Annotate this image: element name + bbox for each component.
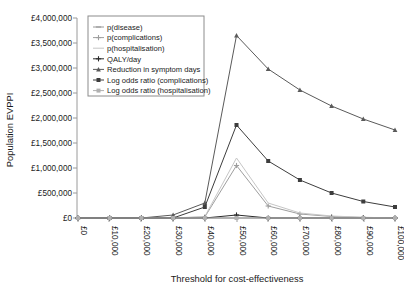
y-tick-label: £500,000 (38, 189, 73, 198)
y-tick-labels: £4,000,000 £3,500,000 £3,000,000 £2,500,… (31, 14, 72, 223)
x-tick-label: £40,000 (206, 226, 215, 256)
y-tick-label: £3,500,000 (31, 39, 72, 48)
data-point-triangle (298, 88, 303, 92)
data-point-square (203, 205, 207, 209)
y-axis-title: Population EVPPI (4, 93, 15, 168)
y-tick-label: £2,500,000 (31, 89, 72, 98)
legend-item-label: Log odds ratio (complications) (107, 76, 209, 85)
data-point-square (97, 78, 101, 82)
data-point-square (361, 216, 365, 220)
data-point-square (298, 178, 302, 182)
y-axis-ticks (73, 18, 77, 218)
x-tick-label: £30,000 (174, 226, 183, 256)
x-tick-label: £60,000 (269, 226, 278, 256)
x-tick-label: £70,000 (301, 226, 310, 256)
x-tick-label: £100,000 (396, 226, 404, 261)
y-tick-label: £0 (63, 214, 73, 223)
data-point-square (393, 216, 397, 220)
data-point-square (139, 216, 143, 220)
x-tick-label: £50,000 (238, 226, 247, 256)
legend-item-label: QALY/day (107, 55, 141, 64)
data-point-square (298, 216, 302, 220)
y-tick-label: £4,000,000 (31, 14, 72, 23)
x-axis-title-text: Threshold for cost-effectiveness (171, 273, 304, 284)
data-point-square (203, 216, 207, 220)
legend-item-label: p(hospitalisation) (107, 44, 165, 53)
y-tick-label: £3,000,000 (31, 64, 72, 73)
data-point-square (171, 216, 175, 220)
x-tick-label: £90,000 (365, 226, 374, 256)
legend: p(disease)p(complications)p(hospitalisat… (88, 16, 211, 96)
data-point-square (361, 200, 365, 204)
data-point-square (266, 159, 270, 163)
x-tick-label: £20,000 (142, 226, 151, 256)
legend-item-label: p(complications) (107, 33, 163, 42)
y-tick-label: £1,000,000 (31, 164, 72, 173)
data-point-triangle (234, 33, 239, 37)
legend-item-5[interactable]: Log odds ratio (complications) (93, 76, 209, 85)
data-point-square (330, 216, 334, 220)
data-point-square (97, 89, 101, 93)
legend-item-label: Reduction in symptom days (107, 65, 200, 74)
data-point-square (330, 191, 334, 195)
y-axis-title-text: Population EVPPI (4, 93, 15, 168)
data-point-square (235, 123, 239, 127)
legend-item-label: p(disease) (107, 23, 143, 32)
data-point-square (266, 216, 270, 220)
x-tick-label: £80,000 (333, 226, 342, 256)
legend-item-label: Log odds ratio (hospitalisation) (107, 86, 211, 95)
data-point-triangle (329, 104, 334, 108)
x-tick-label: £10,000 (110, 226, 119, 256)
series-1 (75, 163, 397, 221)
evppi-line-chart: Population EVPPI £4,000,000 £3,500,000 £… (0, 0, 404, 289)
legend-item-4[interactable]: Reduction in symptom days (93, 65, 200, 74)
data-point-square (393, 205, 397, 209)
data-point-square (235, 216, 239, 220)
series-5 (76, 123, 397, 220)
data-point-square (108, 216, 112, 220)
x-tick-labels: £0 £10,000 £20,000 £30,000 £40,000 £50,0… (79, 226, 404, 261)
data-point-square (76, 216, 80, 220)
y-tick-label: £1,500,000 (31, 139, 72, 148)
y-tick-label: £2,000,000 (31, 114, 72, 123)
x-tick-label: £0 (79, 226, 88, 236)
legend-item-6[interactable]: Log odds ratio (hospitalisation) (93, 86, 211, 95)
